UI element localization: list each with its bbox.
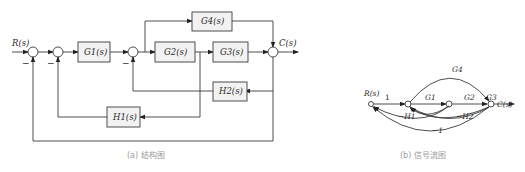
- gain-minus-h1: −H1: [398, 112, 416, 121]
- gain-minus-h2: −H2: [456, 112, 474, 121]
- minus-sign-2: −: [47, 58, 55, 68]
- output-label-a: C(s): [279, 38, 297, 48]
- gain-g1: G1: [425, 93, 436, 102]
- minus-sign-1: −: [22, 58, 30, 68]
- input-label-b: R(s): [363, 89, 379, 98]
- block-g2: G2(s): [164, 47, 187, 57]
- block-g1: G1(s): [84, 47, 107, 57]
- gain-input: 1: [385, 93, 390, 102]
- caption-block-diagram: (a) 结构图: [127, 149, 165, 160]
- diagram-canvas: R(s) C(s) G1(s) G2(s) G3(s) G4(s) H1(s) …: [0, 0, 525, 172]
- gain-g2: G2: [464, 93, 475, 102]
- input-label-a: R(s): [11, 38, 29, 48]
- block-g3: G3(s): [220, 47, 243, 57]
- block-h1: H1(s): [112, 112, 137, 122]
- gain-minus-one: −1: [432, 126, 443, 135]
- gain-g4: G4: [452, 65, 463, 74]
- block-h2: H2(s): [218, 86, 243, 96]
- caption-signal-flow: (b) 信号流图: [400, 149, 446, 160]
- gain-g3: G3: [486, 93, 497, 102]
- minus-sign-3: −: [122, 58, 130, 68]
- block-g4: G4(s): [201, 16, 224, 26]
- output-label-b: C(s): [497, 100, 513, 109]
